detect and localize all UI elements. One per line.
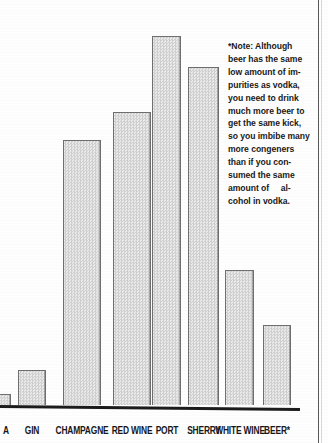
x-axis-tick-labels: AGINCHAMPAGNERED WINEPORTSHERRYWHITE WIN… <box>0 424 300 443</box>
footnote-line: get the same kick, <box>228 117 312 130</box>
footnote-line: so you imbibe many <box>228 130 312 143</box>
footnote-line: cohol in vodka. <box>228 195 312 208</box>
bar-vodka <box>0 394 11 405</box>
x-label-beer: BEER* <box>229 424 325 436</box>
bar-sherry <box>188 67 219 405</box>
footnote-line: purities as vodka, <box>228 79 312 92</box>
page-edge-line <box>318 0 319 443</box>
footnote-line: much more beer to <box>228 105 312 118</box>
bar-beer <box>263 325 291 405</box>
bar-red-wine <box>113 112 151 405</box>
footnote-line: sumed the same <box>228 169 312 182</box>
footnote-line: amount of al- <box>228 182 312 195</box>
footnote-line: beer has the same <box>228 53 312 66</box>
footnote-text-block: *Note: Althoughbeer has the samelow amou… <box>228 40 312 208</box>
footnote-line: than if you con- <box>228 156 312 169</box>
footnote-line: low amount of im- <box>228 66 312 79</box>
footnote-line: *Note: Although <box>228 40 312 53</box>
chart-page: *Note: Althoughbeer has the samelow amou… <box>0 0 328 443</box>
bar-port <box>152 36 181 405</box>
bar-gin <box>18 370 46 405</box>
bar-champagne <box>63 140 101 405</box>
page-edge-shadow <box>321 0 322 443</box>
footnote-line: you need to drink <box>228 92 312 105</box>
footnote-line: more congeners <box>228 143 312 156</box>
x-axis-baseline <box>0 405 300 411</box>
bar-white-wine <box>225 270 254 405</box>
